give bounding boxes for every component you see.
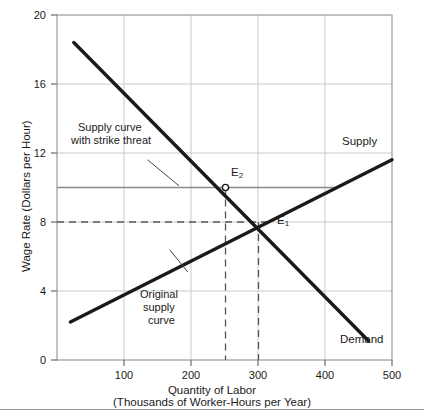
- annotation-original-supply-line2: supply: [143, 301, 175, 314]
- y-axis-title: Wage Rate (Dollars per Hour): [20, 120, 33, 272]
- supply-curve-label: Supply: [342, 135, 377, 148]
- x-tick-label-100: 100: [107, 369, 141, 382]
- point-label-e1: E1: [277, 214, 289, 227]
- point-label-e2: E2: [231, 166, 243, 179]
- point-label-e1-text: E: [277, 214, 285, 226]
- x-tick-label-200: 200: [174, 369, 208, 382]
- y-tick-label-16: 16: [22, 78, 46, 91]
- point-label-e1-subscript: 1: [285, 219, 289, 228]
- point-marker-e2: [222, 184, 228, 190]
- x-tick-label-400: 400: [308, 369, 342, 382]
- x-tick-label-300: 300: [241, 369, 275, 382]
- y-axis-ticks: [51, 15, 57, 360]
- chart-canvas: [0, 0, 424, 417]
- point-label-e2-subscript: 2: [239, 171, 243, 180]
- x-axis-ticks: [124, 360, 392, 366]
- y-tick-label-4: 4: [22, 285, 46, 298]
- y-tick-label-0: 0: [22, 354, 46, 367]
- y-tick-label-20: 20: [22, 9, 46, 22]
- demand-curve-label: Demand: [340, 333, 383, 346]
- annotation-strike-threat-line1: Supply curve: [78, 121, 142, 134]
- point-label-e2-text: E: [231, 166, 239, 178]
- annotation-strike-threat-line2: with strike threat: [71, 134, 151, 147]
- supply-demand-chart-figure: 20 16 12 8 4 0 100 200 300 400 500 Wage …: [0, 0, 424, 417]
- x-tick-label-500: 500: [375, 369, 409, 382]
- annotation-original-supply-line1: Original: [140, 288, 178, 301]
- x-axis-subtitle: (Thousands of Worker-Hours per Year): [0, 396, 424, 409]
- annotation-original-supply-line3: curve: [148, 314, 175, 327]
